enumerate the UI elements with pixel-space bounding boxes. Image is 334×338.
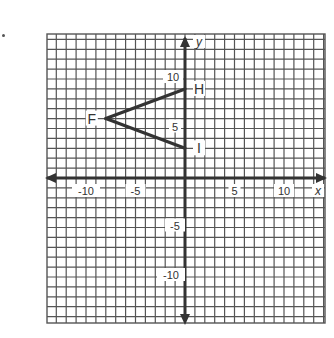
y-axis-up-arrow-icon — [180, 36, 190, 47]
x-axis-label: x — [314, 184, 322, 198]
y-tick-label: -10 — [163, 269, 179, 281]
y-tick-label: -5 — [170, 220, 180, 232]
y-axis-label: y — [195, 35, 203, 49]
x-tick-label: -5 — [131, 185, 141, 197]
coordinate-plane: -10-5510105-5-10xy FHI — [0, 0, 334, 338]
y-tick-label: 10 — [167, 71, 179, 83]
point-label-H: H — [194, 81, 204, 97]
x-tick-label: -10 — [78, 185, 94, 197]
point-label-F: F — [88, 111, 97, 127]
x-tick-label: 5 — [231, 185, 237, 197]
y-tick-label: 5 — [172, 121, 178, 133]
point-label-I: I — [197, 140, 201, 156]
x-tick-label: 10 — [278, 185, 290, 197]
